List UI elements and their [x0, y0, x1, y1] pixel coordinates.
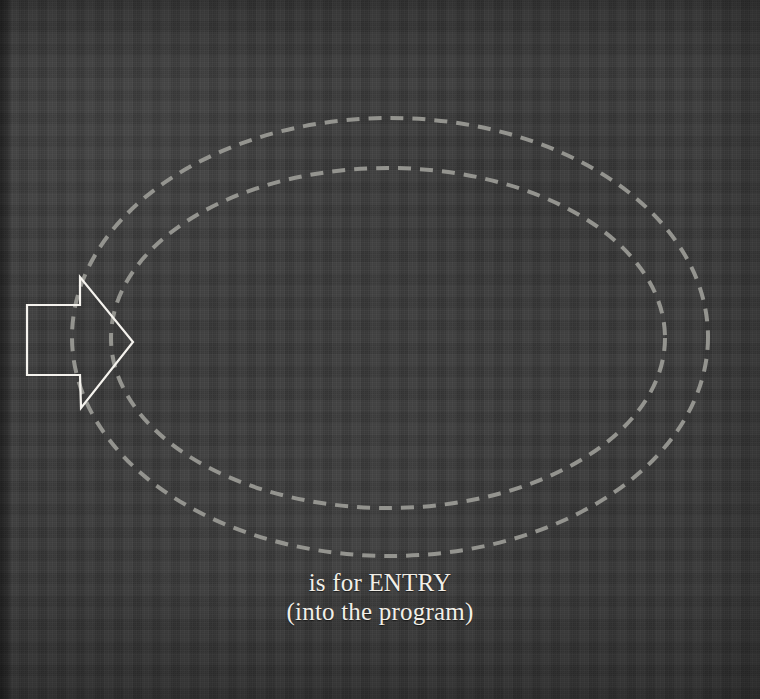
entry-arrow [27, 277, 133, 408]
caption-line-1: is for ENTRY [0, 570, 760, 597]
illustration-plate: is for ENTRY (into the program) [0, 0, 760, 699]
caption: is for ENTRY (into the program) [0, 570, 760, 625]
caption-line-2: (into the program) [0, 599, 760, 626]
inner-boundary-ellipse [111, 168, 665, 508]
outer-boundary-ellipse [72, 118, 708, 556]
